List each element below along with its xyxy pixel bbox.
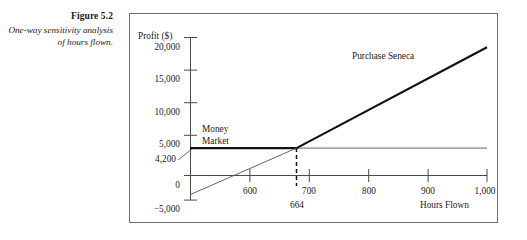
figure-root: Figure 5.2 One-way sensitivity analysis … bbox=[0, 0, 527, 240]
series-label-money-market-line2: Market bbox=[202, 136, 229, 146]
figure-number: Figure 5.2 bbox=[0, 10, 113, 22]
x-tick-label-600: 600 bbox=[234, 186, 266, 196]
x-tick-label-800: 800 bbox=[353, 186, 385, 196]
figure-caption: Figure 5.2 One-way sensitivity analysis … bbox=[0, 10, 113, 48]
series-label-purchase-seneca: Purchase Seneca bbox=[352, 51, 414, 61]
y-tick-label-20000: 20,000 bbox=[130, 42, 180, 52]
series-label-money-market-line1: Money bbox=[202, 124, 228, 134]
chart-axes bbox=[191, 37, 488, 200]
x-tick-label-900: 900 bbox=[412, 186, 444, 196]
x-tick-label-1000: 1,000 bbox=[468, 186, 502, 196]
figure-box: Profit ($) 20,000 15,000 10,000 5,000 4,… bbox=[129, 13, 498, 223]
y-tick-label-5000: 5,000 bbox=[130, 139, 180, 149]
x-axis-title: Hours Flown bbox=[420, 200, 469, 210]
breakeven-label: 664 bbox=[280, 200, 314, 210]
y-tick-label-minus5000: −5,000 bbox=[130, 204, 180, 214]
y-tick-label-0: 0 bbox=[130, 180, 180, 190]
y-tick-label-15000: 15,000 bbox=[130, 74, 180, 84]
money-market-value-label: 4,200 bbox=[130, 154, 176, 164]
x-tick-label-700: 700 bbox=[293, 186, 325, 196]
y-tick-label-10000: 10,000 bbox=[130, 107, 180, 117]
figure-description: One-way sensitivity analysis of hours fl… bbox=[0, 24, 113, 48]
money-market-value-leader bbox=[178, 149, 192, 160]
series-purchase-seneca-line bbox=[190, 47, 487, 195]
y-axis-title: Profit ($) bbox=[138, 31, 172, 41]
